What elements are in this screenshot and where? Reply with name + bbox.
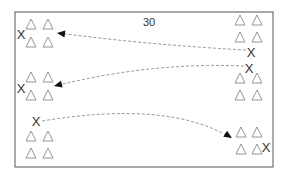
triangle-icon xyxy=(235,15,245,25)
triangle-icon xyxy=(26,131,36,141)
movement-path xyxy=(58,33,246,50)
triangle-icon xyxy=(43,90,53,100)
arrowhead-icon xyxy=(57,31,65,38)
x-marker-icon: X xyxy=(262,140,271,155)
triangle-icon xyxy=(43,148,53,158)
triangle-icon xyxy=(43,131,53,141)
x-marker-icon: X xyxy=(17,81,26,96)
triangle-icon xyxy=(235,90,245,100)
triangle-icon xyxy=(26,72,36,82)
triangle-icon xyxy=(252,90,262,100)
triangle-icon xyxy=(26,19,36,29)
triangle-icon xyxy=(236,127,246,137)
triangle-icon xyxy=(26,37,36,47)
diagram-frame xyxy=(15,12,273,167)
diagram-number: 30 xyxy=(143,16,155,28)
triangle-icon xyxy=(43,19,53,29)
x-marker-icon: X xyxy=(245,61,254,76)
triangle-icon xyxy=(252,127,262,137)
triangle-icon xyxy=(26,90,36,100)
triangle-icon xyxy=(252,144,262,154)
x-marker-icon: X xyxy=(247,45,256,60)
movement-paths xyxy=(42,31,246,138)
triangle-icon xyxy=(26,148,36,158)
x-marker-icon: X xyxy=(17,27,26,42)
triangle-icon xyxy=(43,72,53,82)
x-marker-icon: X xyxy=(32,114,41,129)
arrowhead-icon xyxy=(54,81,63,88)
triangle-icon xyxy=(252,73,262,83)
triangle-icon xyxy=(252,32,262,42)
triangle-icon xyxy=(235,32,245,42)
triangle-icon xyxy=(43,37,53,47)
play-diagram: 30 XXXXXX xyxy=(0,0,283,178)
triangle-icon xyxy=(236,144,246,154)
movement-path xyxy=(42,114,231,138)
triangle-icon xyxy=(252,15,262,25)
triangle-icon xyxy=(235,73,245,83)
movement-path xyxy=(55,65,244,86)
x-markers: XXXXXX xyxy=(17,27,271,155)
